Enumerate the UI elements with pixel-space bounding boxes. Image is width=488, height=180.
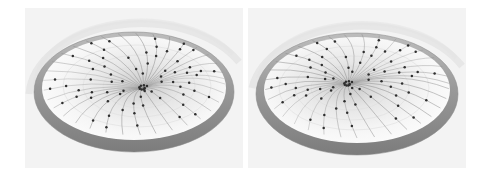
node-dot (146, 85, 148, 87)
node-dot (166, 50, 169, 53)
node-dot (330, 89, 333, 92)
node-dot (351, 70, 354, 73)
bowl-surface-right (264, 37, 450, 143)
node-dot (172, 81, 175, 84)
node-dot (295, 54, 298, 57)
node-dot (380, 80, 383, 83)
node-dot (319, 88, 322, 91)
node-dot (309, 66, 312, 69)
node-dot (358, 88, 361, 91)
node-dot (335, 107, 338, 110)
node-dot (281, 101, 284, 104)
node-dot (425, 99, 428, 102)
node-dot (140, 95, 143, 98)
node-dot (326, 48, 329, 51)
node-dot (193, 90, 196, 93)
node-dot (367, 78, 370, 81)
node-dot (308, 59, 311, 62)
node-dot (316, 42, 319, 45)
node-dot (399, 49, 402, 52)
node-dot (135, 68, 138, 71)
node-dot (323, 114, 326, 117)
node-dot (108, 115, 111, 118)
node-dot (155, 46, 158, 49)
node-dot (127, 57, 129, 60)
node-dot (178, 116, 181, 119)
node-dot (103, 65, 106, 68)
node-dot (160, 81, 163, 84)
node-dot (110, 73, 113, 76)
node-dot (92, 68, 95, 71)
node-dot (397, 105, 400, 108)
node-dot (142, 72, 145, 75)
node-dot (200, 70, 203, 73)
node-dot (102, 57, 105, 60)
node-dot (384, 50, 387, 53)
node-dot (383, 70, 386, 73)
node-dot (159, 97, 162, 100)
node-dot (179, 86, 182, 89)
node-dot (164, 69, 167, 72)
node-dot (321, 64, 324, 67)
node-dot (321, 56, 324, 59)
node-dot (90, 96, 93, 99)
node-dot (398, 71, 401, 74)
node-dot (395, 117, 398, 120)
node-dot (92, 119, 95, 122)
node-dot (72, 55, 75, 58)
node-dot (403, 66, 406, 69)
node-dot (143, 84, 145, 86)
node-dot (347, 67, 350, 70)
panel-right-canvas (248, 8, 466, 168)
node-dot (378, 39, 381, 42)
node-dot (324, 71, 327, 74)
node-dot (375, 46, 378, 49)
node-dot (176, 60, 179, 63)
node-dot (349, 93, 352, 96)
node-dot (105, 126, 108, 129)
node-dot (160, 75, 163, 78)
node-dot (183, 42, 186, 45)
node-dot (54, 78, 57, 81)
node-dot (65, 85, 68, 88)
node-dot (414, 51, 417, 54)
node-dot (121, 109, 124, 112)
node-dot (192, 49, 195, 52)
node-dot (49, 87, 52, 90)
node-dot (345, 81, 347, 83)
node-dot (348, 80, 350, 82)
node-dot (90, 42, 93, 45)
node-dot (332, 77, 335, 80)
node-dot (411, 75, 414, 78)
node-dot (407, 91, 410, 94)
node-dot (119, 93, 122, 96)
node-dot (110, 80, 113, 83)
node-dot (324, 78, 327, 81)
node-dot (213, 70, 216, 73)
node-dot (154, 38, 157, 41)
node-dot (354, 103, 357, 106)
node-dot (88, 59, 91, 62)
node-dot (307, 76, 310, 79)
node-dot (189, 66, 192, 69)
node-dot (142, 104, 145, 107)
node-dot (293, 94, 296, 97)
node-dot (182, 93, 185, 96)
figure-container (0, 0, 488, 180)
node-dot (359, 62, 362, 65)
node-dot (174, 71, 177, 74)
node-dot (194, 113, 197, 116)
node-dot (373, 68, 376, 71)
node-dot (140, 85, 142, 87)
node-dot (390, 60, 393, 63)
node-dot (108, 40, 111, 43)
node-dot (416, 71, 419, 74)
node-dot (306, 89, 309, 92)
node-dot (121, 80, 124, 83)
node-dot (309, 119, 312, 122)
node-dot (270, 86, 273, 89)
node-dot (132, 102, 135, 105)
node-dot (412, 116, 415, 119)
node-dot (188, 82, 191, 85)
panel-left (25, 8, 243, 168)
